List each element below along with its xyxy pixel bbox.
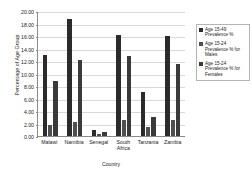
y-axis-tick-label: 18.00 <box>0 22 34 28</box>
bar <box>141 92 145 136</box>
bar <box>43 55 47 136</box>
bar <box>67 19 71 137</box>
bar-group <box>87 12 112 136</box>
bar-group <box>161 12 186 136</box>
bar <box>122 120 126 136</box>
legend-item-label: Age 15-24 Prevalence % for Females <box>205 61 247 77</box>
x-axis-tick-labels: MalawiNamibiaSenegalSouth AfricaTanzania… <box>37 139 185 151</box>
bar-group <box>136 12 161 136</box>
legend-swatch-icon <box>199 28 203 32</box>
chart-legend: Age 15-49 Prevalence %Age 15-24 Prevalen… <box>196 24 250 81</box>
bar <box>102 132 106 136</box>
bar <box>78 60 82 136</box>
bar <box>92 130 96 136</box>
legend-item-label: Age 15-49 Prevalence % <box>205 27 247 38</box>
bar <box>116 35 120 136</box>
legend-swatch-icon <box>199 42 203 46</box>
bar <box>146 127 150 136</box>
bar <box>176 64 180 136</box>
legend-item[interactable]: Age 15-24 Prevalence % for Males <box>199 41 247 57</box>
y-axis-tick-label: 0.00 <box>0 134 34 140</box>
legend-item[interactable]: Age 15-49 Prevalence % <box>199 27 247 38</box>
y-axis-tick-label: 6.00 <box>0 97 34 103</box>
bar-group <box>63 12 88 136</box>
x-axis-title: Country <box>37 161 185 168</box>
y-axis-tick-label: 20.00 <box>0 9 34 15</box>
bar-chart: Percentage of Age Group 0.002.004.006.00… <box>0 0 252 173</box>
legend-swatch-icon <box>199 62 203 66</box>
y-axis-tick-label: 10.00 <box>0 72 34 78</box>
x-axis-tick-label: Senegal <box>86 139 111 151</box>
bar <box>151 117 155 136</box>
bar <box>127 56 131 136</box>
bar-groups <box>38 12 185 136</box>
bar <box>73 122 77 136</box>
bar <box>165 36 169 136</box>
y-axis-tick-label: 14.00 <box>0 47 34 53</box>
legend-item-label: Age 15-24 Prevalence % for Males <box>205 41 247 57</box>
x-axis-tick-label: South Africa <box>111 139 136 151</box>
x-axis-tick-label: Zambia <box>160 139 185 151</box>
y-axis-tick-mark <box>36 137 38 138</box>
y-axis-tick-label: 2.00 <box>0 122 34 128</box>
bar <box>171 120 175 136</box>
y-axis-tick-label: 4.00 <box>0 109 34 115</box>
bar <box>97 134 101 136</box>
y-axis-tick-label: 12.00 <box>0 59 34 65</box>
bar-group <box>38 12 63 136</box>
x-axis-tick-label: Tanzania <box>136 139 161 151</box>
y-axis-tick-label: 16.00 <box>0 34 34 40</box>
y-axis-tick-label: 8.00 <box>0 84 34 90</box>
legend-item[interactable]: Age 15-24 Prevalence % for Females <box>199 61 247 77</box>
x-axis-tick-label: Malawi <box>37 139 62 151</box>
bar <box>48 125 52 136</box>
bar <box>53 81 57 136</box>
bar-group <box>112 12 137 136</box>
plot-area: 0.002.004.006.008.0010.0012.0014.0016.00… <box>37 12 185 137</box>
x-axis-tick-label: Namibia <box>62 139 87 151</box>
